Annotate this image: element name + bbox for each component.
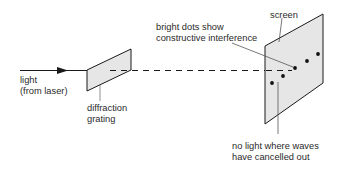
- bright-dot-central: [293, 66, 297, 70]
- arrow-right-icon: [57, 67, 68, 74]
- grating-label-line1: diffraction: [87, 103, 127, 113]
- light-label-line1: light: [20, 75, 37, 85]
- screen-label: screen: [270, 10, 298, 20]
- bright-dot: [270, 81, 274, 85]
- dark-region-label-line1: no light where waves: [232, 141, 319, 151]
- bright-dots-label-line2: constructive interference: [156, 33, 257, 43]
- bright-dot: [281, 74, 285, 78]
- bright-dots-label-line1: bright dots show: [156, 22, 224, 32]
- bright-dot: [305, 59, 309, 63]
- light-label-line2: (from laser): [20, 86, 68, 96]
- diffraction-diagram: light (from laser) diffraction grating s…: [0, 0, 343, 176]
- bright-dot: [316, 52, 320, 56]
- grating-label-line2: grating: [87, 114, 115, 124]
- dark-region-label-line2: have cancelled out: [232, 152, 310, 162]
